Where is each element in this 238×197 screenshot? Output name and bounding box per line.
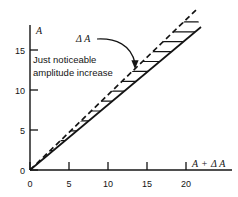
y-tick-label-15: 15: [15, 46, 25, 56]
series-jnd-threshold-line: [30, 9, 197, 170]
callout-arrow-curve: [97, 39, 135, 63]
delta-a-callout-label: Δ A: [75, 33, 91, 44]
hatched-band: [28, 22, 215, 161]
y-tick-label-5: 5: [20, 126, 25, 136]
x-axis-title-plus: +: [201, 158, 208, 169]
hatch-lines: [28, 22, 215, 161]
x-tick-label-10: 10: [103, 179, 113, 189]
amplitude-jnd-figure: 0 5 10 15 0 5 10 15 20 A A + Δ A Δ A Jus…: [0, 0, 238, 197]
x-axis-title: A + Δ A: [191, 158, 226, 169]
x-tick-label-5: 5: [66, 179, 71, 189]
callout-arrow-head: [131, 60, 138, 69]
y-tick-label-10: 10: [15, 86, 25, 96]
x-axis-ticks: [30, 162, 186, 170]
series-equal-amplitude-line: [30, 27, 201, 170]
x-axis-title-delta: Δ A: [210, 158, 226, 169]
note-line-2: amplitude increase: [33, 67, 113, 78]
y-tick-label-0: 0: [20, 166, 25, 176]
x-tick-label-20: 20: [181, 179, 191, 189]
y-axis-title: A: [35, 25, 43, 36]
x-tick-label-15: 15: [142, 179, 152, 189]
x-axis-title-a: A: [191, 158, 199, 169]
plot-canvas: 0 5 10 15 0 5 10 15 20 A A + Δ A Δ A Jus…: [0, 0, 238, 197]
note-line-1: Just noticeable: [33, 54, 96, 65]
x-tick-label-0: 0: [27, 179, 32, 189]
